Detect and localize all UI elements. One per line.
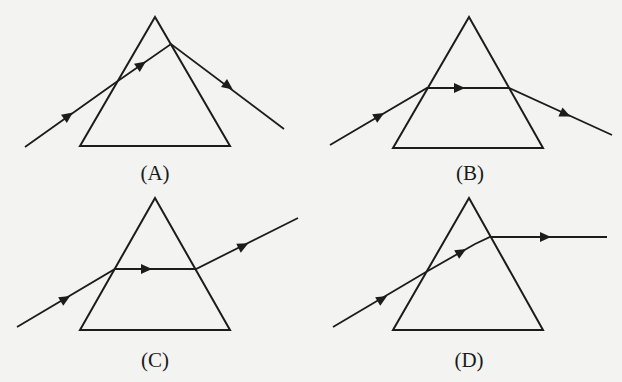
prism-d xyxy=(393,198,543,330)
arrowhead-icon xyxy=(236,239,250,253)
panel-b: (B) xyxy=(330,17,612,185)
arrowhead-icon xyxy=(141,264,152,274)
arrowhead-icon xyxy=(372,109,387,123)
light-ray-a xyxy=(25,44,284,147)
light-ray-d xyxy=(333,237,607,327)
option-label-d: (D) xyxy=(454,348,483,372)
arrowhead-icon xyxy=(58,292,73,306)
prism-b xyxy=(393,17,543,148)
ray-direction-arrows-d xyxy=(375,232,551,306)
arrowhead-icon xyxy=(134,57,149,71)
light-ray-b xyxy=(330,88,612,145)
arrowhead-icon xyxy=(558,107,572,121)
panel-c: (C) xyxy=(17,198,298,372)
prism-diagram: (A) (B) (C) (D) xyxy=(0,0,622,382)
panel-d: (D) xyxy=(333,198,607,372)
light-ray-c xyxy=(17,218,298,327)
arrowhead-icon xyxy=(454,245,469,259)
ray-direction-arrows-a xyxy=(61,57,236,123)
prism-a xyxy=(80,17,230,146)
ray-direction-arrows-c xyxy=(58,239,250,306)
option-label-c: (C) xyxy=(141,348,169,372)
option-label-b: (B) xyxy=(456,161,484,185)
arrowhead-icon xyxy=(540,232,551,242)
panel-a: (A) xyxy=(25,17,284,185)
option-label-a: (A) xyxy=(140,161,169,185)
arrowhead-icon xyxy=(454,83,465,93)
